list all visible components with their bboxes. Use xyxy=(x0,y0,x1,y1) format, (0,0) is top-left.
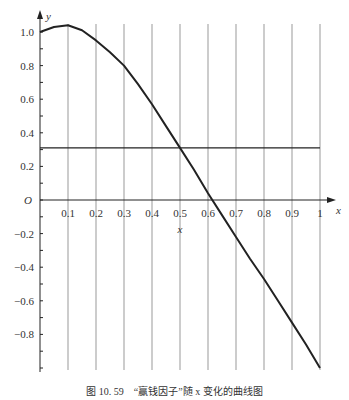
y-tick-label: 0.4 xyxy=(20,127,34,139)
line-chart: 1.00.80.60.40.2−0.2−0.4−0.6−0.80.10.20.3… xyxy=(0,0,349,380)
y-tick-label: 0.8 xyxy=(20,60,34,72)
x-axis-arrow-icon xyxy=(327,197,336,203)
y-tick-label: −0.2 xyxy=(14,228,34,240)
x-tick-label: 0.8 xyxy=(257,207,271,219)
x-tick-label: 0.6 xyxy=(201,207,215,219)
y-axis-label: y xyxy=(45,10,51,22)
y-tick-label: −0.6 xyxy=(14,295,34,307)
y-tick-label: 1.0 xyxy=(20,26,34,38)
x-tick-label: 0.2 xyxy=(89,207,103,219)
x-tick-label: 1 xyxy=(317,207,323,219)
x-tick-label: 0.4 xyxy=(145,207,159,219)
x-tick-label: 0.9 xyxy=(285,207,299,219)
x-tick-label: 0.1 xyxy=(61,207,75,219)
x-tick-label: 0.7 xyxy=(229,207,243,219)
figure-caption: 图 10. 59 “赢钱因子”随 x 变化的曲线图 xyxy=(0,383,349,398)
x-tick-label: 0.3 xyxy=(117,207,131,219)
y-tick-label: −0.4 xyxy=(14,261,34,273)
y-axis-arrow-icon xyxy=(37,10,43,19)
x-axis-label-secondary: x xyxy=(177,223,183,235)
x-axis-label: x xyxy=(335,204,341,216)
x-tick-label: 0.5 xyxy=(173,207,187,219)
origin-label: O xyxy=(24,194,32,206)
y-tick-label: 0.6 xyxy=(20,93,34,105)
y-tick-label: −0.8 xyxy=(14,328,34,340)
y-tick-label: 0.2 xyxy=(20,160,34,172)
